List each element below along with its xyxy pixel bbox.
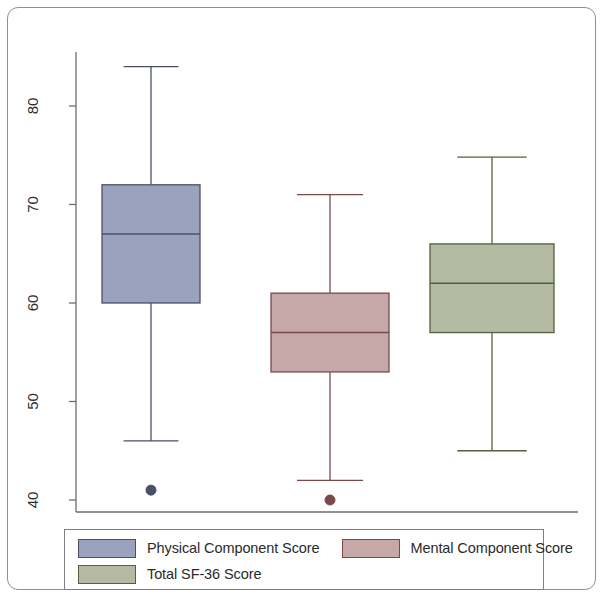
legend-swatch-mental — [342, 539, 400, 558]
boxplot-2 — [271, 195, 389, 505]
legend-row: Total SF-36 Score — [65, 561, 543, 587]
y-axis-tick-label: 80 — [24, 98, 41, 115]
legend-label-physical: Physical Component Score — [147, 540, 320, 556]
legend-row: Physical Component Score Mental Componen… — [65, 535, 543, 561]
legend-swatch-total — [78, 565, 136, 584]
y-axis-tick-label: 50 — [24, 393, 41, 410]
legend: Physical Component Score Mental Componen… — [64, 529, 544, 590]
legend-label-total: Total SF-36 Score — [147, 566, 261, 582]
outlier-point — [325, 495, 335, 505]
boxplot-3 — [430, 157, 554, 451]
legend-entry-total[interactable]: Total SF-36 Score — [78, 565, 261, 584]
boxplot-chart: 8070605040 — [0, 0, 603, 530]
legend-entry-mental[interactable]: Mental Component Score — [342, 539, 573, 558]
box-series-group — [102, 67, 554, 505]
legend-swatch-physical — [78, 539, 136, 558]
outlier-point — [146, 485, 156, 495]
boxplot-svg: 8070605040 — [0, 0, 603, 530]
y-axis-tick-label: 40 — [24, 492, 41, 509]
boxplot-1 — [102, 67, 200, 496]
y-axis-tick-label: 60 — [24, 295, 41, 312]
y-axis-tick-label: 70 — [24, 196, 41, 213]
legend-entry-physical[interactable]: Physical Component Score — [78, 539, 320, 558]
legend-label-mental: Mental Component Score — [411, 540, 573, 556]
